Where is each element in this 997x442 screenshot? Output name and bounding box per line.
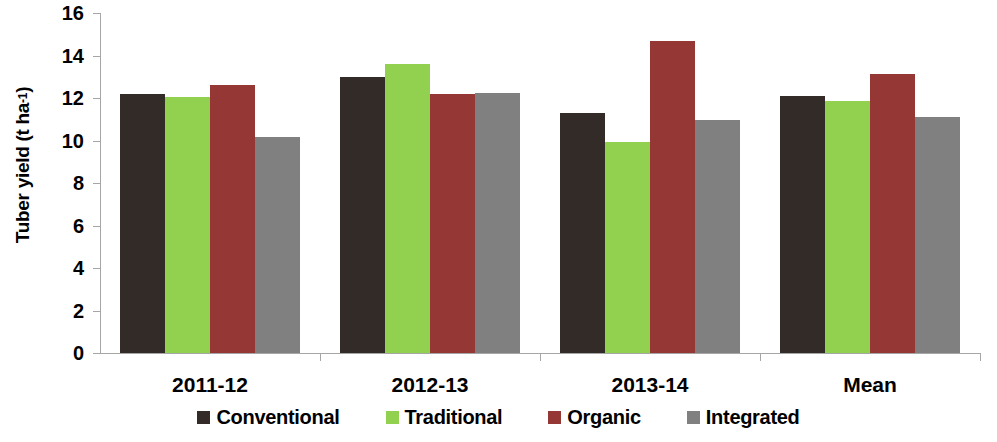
bar xyxy=(430,94,475,353)
legend-label: Organic xyxy=(567,406,640,429)
bar-group xyxy=(760,13,980,353)
bar xyxy=(560,113,605,353)
y-axis-tick: 14 xyxy=(93,56,100,57)
bar xyxy=(385,64,430,353)
bar xyxy=(870,74,915,353)
legend-item: Integrated xyxy=(687,406,800,429)
legend-label: Traditional xyxy=(405,406,503,429)
legend-item: Organic xyxy=(548,406,640,429)
bar xyxy=(650,41,695,353)
y-axis-tick: 4 xyxy=(93,268,100,269)
legend-label: Conventional xyxy=(216,406,339,429)
legend-swatch-icon xyxy=(687,411,700,424)
y-axis-tick: 16 xyxy=(93,13,100,14)
y-axis-tick-label: 14 xyxy=(44,44,84,68)
bar xyxy=(605,142,650,353)
x-axis-category-label: 2013-14 xyxy=(540,373,760,397)
x-axis-category-label: 2011-12 xyxy=(100,373,320,397)
y-axis-title-base: Tuber yield (t ha xyxy=(12,103,34,243)
bar xyxy=(475,93,520,353)
legend-swatch-icon xyxy=(197,411,210,424)
bar xyxy=(695,120,740,353)
y-axis-tick-label: 0 xyxy=(44,341,84,365)
x-axis-tick xyxy=(320,353,321,361)
y-axis-tick: 6 xyxy=(93,226,100,227)
bar-group xyxy=(100,13,320,353)
y-axis-tick-label: 8 xyxy=(44,171,84,195)
y-axis-title-suffix: ) xyxy=(12,87,34,93)
legend-label: Integrated xyxy=(706,406,800,429)
y-axis-tick: 8 xyxy=(93,183,100,184)
bar-group xyxy=(540,13,760,353)
x-axis-tick xyxy=(980,353,981,361)
y-axis-tick: 0 xyxy=(93,353,100,354)
legend-swatch-icon xyxy=(548,411,561,424)
y-axis-tick-label: 10 xyxy=(44,129,84,153)
y-axis-tick-label: 16 xyxy=(44,1,84,25)
bar xyxy=(165,97,210,353)
bar xyxy=(780,96,825,353)
legend-item: Traditional xyxy=(386,406,503,429)
bar xyxy=(210,85,255,353)
y-axis-tick: 12 xyxy=(93,98,100,99)
x-axis-category-label: Mean xyxy=(760,373,980,397)
bar xyxy=(825,101,870,353)
y-axis-tick-label: 4 xyxy=(44,256,84,280)
x-axis-tick xyxy=(760,353,761,361)
x-axis-tick xyxy=(540,353,541,361)
y-axis-title: Tuber yield (t ha-1) xyxy=(6,0,40,345)
plot-area: 1614121086420 2011-122012-132013-14Mean xyxy=(100,13,980,353)
y-axis-tick-label: 12 xyxy=(44,86,84,110)
legend-item: Conventional xyxy=(197,406,339,429)
x-axis-category-label: 2012-13 xyxy=(320,373,540,397)
legend-swatch-icon xyxy=(386,411,399,424)
chart-legend: ConventionalTraditionalOrganicIntegrated xyxy=(0,406,997,429)
bar xyxy=(255,137,300,353)
bar-group xyxy=(320,13,540,353)
tuber-yield-bar-chart: Tuber yield (t ha-1) 1614121086420 2011-… xyxy=(0,0,997,442)
y-axis-tick: 10 xyxy=(93,141,100,142)
y-axis-tick-label: 6 xyxy=(44,214,84,238)
bar xyxy=(915,117,960,353)
y-axis-tick: 2 xyxy=(93,311,100,312)
bar xyxy=(340,77,385,353)
bar xyxy=(120,94,165,353)
y-axis-tick-label: 2 xyxy=(44,299,84,323)
